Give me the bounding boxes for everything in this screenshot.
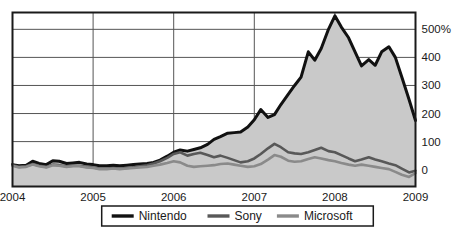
x-tick-label-2008: 2008 (322, 191, 348, 203)
stock-performance-chart: 0100200300400500% 2004200520062007200820… (0, 0, 475, 239)
legend-label-nintendo: Nintendo (139, 209, 187, 223)
x-tick-label-2007: 2007 (242, 191, 268, 203)
y-tick-label-200: 200 (422, 108, 441, 120)
legend-label-sony: Sony (235, 209, 262, 223)
x-tick-label-2009: 2009 (403, 191, 429, 203)
x-tick-label-2006: 2006 (161, 191, 187, 203)
legend-label-microsoft: Microsoft (304, 209, 353, 223)
y-tick-label-0: 0 (422, 164, 428, 176)
x-tick-label-2004: 2004 (0, 191, 26, 203)
y-tick-label-400: 400 (422, 51, 441, 63)
x-tick-label-2005: 2005 (80, 191, 106, 203)
y-tick-label-500%: 500% (422, 23, 451, 35)
y-tick-label-100: 100 (422, 136, 441, 148)
chart-canvas: 0100200300400500% 2004200520062007200820… (0, 0, 475, 239)
chart-legend: NintendoSonyMicrosoft (102, 206, 374, 226)
y-tick-label-300: 300 (422, 79, 441, 91)
